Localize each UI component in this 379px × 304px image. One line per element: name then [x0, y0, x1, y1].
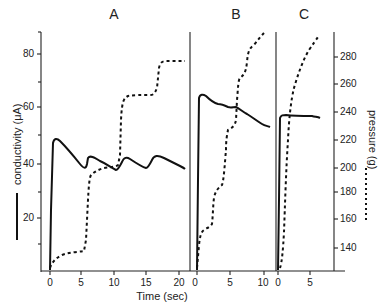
x-tick-a-5: 5 — [78, 277, 84, 288]
left-tick-60: 60 — [23, 101, 35, 112]
figure: A B C 20 40 60 80 conductivity (μA) 0 — [0, 0, 379, 304]
x-tick-a-0: 0 — [47, 277, 53, 288]
right-tick-180: 180 — [340, 186, 357, 197]
x-tick-a-20: 20 — [173, 277, 185, 288]
right-tick-140: 140 — [340, 242, 357, 253]
panel-label-b: B — [231, 6, 240, 22]
x-tick-c-0: 0 — [275, 277, 281, 288]
left-axis-title: conductivity (μA) — [11, 103, 23, 185]
right-axis-title: pressure (g) — [367, 110, 379, 169]
left-axis — [37, 32, 41, 272]
panel-b-pressure-line — [197, 33, 264, 268]
right-axis — [334, 32, 338, 271]
right-tick-240: 240 — [340, 106, 357, 117]
panel-dividers — [190, 32, 276, 271]
panel-b-conductivity-line — [197, 95, 270, 270]
x-tick-a-10: 10 — [108, 277, 120, 288]
panel-c-pressure-line — [280, 37, 318, 268]
left-tick-40: 40 — [23, 158, 35, 169]
x-tick-c-5: 5 — [307, 277, 313, 288]
panel-label-c: C — [299, 6, 309, 22]
panel-a-conductivity-line — [50, 139, 185, 270]
right-tick-280: 280 — [340, 51, 357, 62]
x-tick-b-10: 10 — [257, 277, 269, 288]
right-tick-260: 260 — [340, 78, 357, 89]
x-axis-title: Time (sec) — [136, 290, 188, 302]
right-tick-160: 160 — [340, 213, 357, 224]
x-tick-b-5: 5 — [227, 277, 233, 288]
bottom-axis — [41, 271, 345, 275]
right-tick-200: 200 — [340, 162, 357, 173]
panel-a-pressure-line — [50, 61, 185, 268]
left-tick-80: 80 — [23, 48, 35, 59]
right-tick-220: 220 — [340, 134, 357, 145]
x-tick-a-15: 15 — [140, 277, 152, 288]
panel-label-a: A — [109, 6, 119, 22]
x-tick-b-0: 0 — [192, 277, 198, 288]
left-tick-20: 20 — [23, 212, 35, 223]
panel-c-conductivity-line — [278, 115, 320, 270]
